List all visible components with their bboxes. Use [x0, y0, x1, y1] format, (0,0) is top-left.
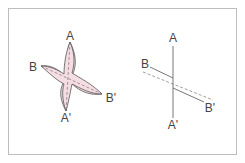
line-figure [143, 46, 213, 118]
segment-b-lower [173, 88, 204, 102]
label-left-b-prime: B' [106, 92, 116, 104]
dashed-b-line [143, 72, 213, 100]
label-left-a-prime: A' [61, 112, 71, 124]
label-right-b-prime: B' [205, 102, 215, 114]
label-left-a: A [66, 30, 74, 42]
label-right-a-prime: A' [168, 119, 178, 131]
label-left-b: B [29, 61, 37, 73]
shape-outline [41, 42, 102, 111]
label-right-b: B [141, 58, 149, 70]
label-right-a: A [169, 32, 177, 44]
diagram-canvas [0, 0, 245, 163]
twisted-shape [41, 42, 102, 111]
